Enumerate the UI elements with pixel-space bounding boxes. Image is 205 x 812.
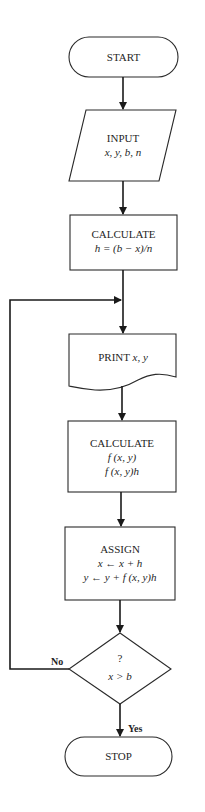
stop-terminal: STOP	[65, 737, 172, 776]
decision-condition: x > b	[107, 670, 132, 682]
assign-label: ASSIGN	[100, 543, 140, 555]
calculate-h-node: CALCULATE h = (b − x)/n	[70, 215, 177, 270]
flowchart: START INPUT x, y, b, n CALCULATE h = (b …	[0, 0, 205, 812]
calculate-f-expr2: f (x, y)h	[105, 465, 139, 478]
calculate-f-node: CALCULATE f (x, y) f (x, y)h	[68, 421, 176, 492]
input-label: INPUT	[107, 132, 140, 144]
print-label: PRINT	[98, 351, 132, 363]
decision-node: ? x > b	[69, 633, 171, 704]
assign-expr1: x ← x + h	[97, 557, 143, 569]
yes-label: Yes	[128, 723, 143, 734]
stop-label: STOP	[105, 750, 132, 762]
print-node: PRINT x, y	[69, 334, 176, 390]
calculate-f-expr1: f (x, y)	[108, 451, 137, 464]
calculate-f-label: CALCULATE	[90, 437, 154, 449]
decision-question-mark: ?	[118, 652, 123, 664]
print-text: PRINT x, y	[98, 351, 148, 363]
calculate-h-formula: h = (b − x)/n	[95, 242, 153, 255]
assign-node: ASSIGN x ← x + h y ← y + f (x, y)h	[65, 527, 175, 600]
start-terminal: START	[69, 37, 178, 77]
input-node: INPUT x, y, b, n	[69, 110, 176, 181]
calculate-h-label: CALCULATE	[91, 228, 155, 240]
start-label: START	[107, 51, 141, 63]
print-vars: x, y	[132, 351, 148, 363]
no-label: No	[51, 656, 63, 667]
assign-expr2: y ← y + f (x, y)h	[82, 571, 157, 584]
input-vars: x, y, b, n	[104, 146, 142, 158]
